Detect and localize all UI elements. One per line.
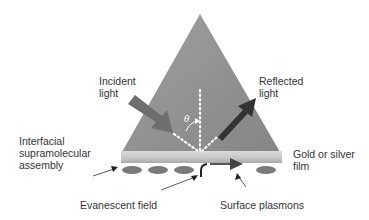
leader-lines: [93, 169, 246, 190]
molecule-ellipse: [256, 166, 276, 174]
interfacial-assembly: [122, 166, 276, 174]
evanescent-field-label: Evanescent field: [80, 199, 157, 211]
surface-plasmons-label: Surface plasmons: [220, 199, 304, 211]
molecule-ellipse: [174, 166, 194, 174]
spr-diagram: [0, 0, 369, 220]
reflected-light-label: Reflected light: [259, 75, 303, 99]
interfacial-assembly-label: Interfacial supramolecular assembly: [19, 135, 91, 171]
metal-film: [121, 151, 282, 163]
evanescent-field-curve: [201, 164, 207, 177]
molecule-ellipse: [122, 166, 142, 174]
molecule-ellipse: [148, 166, 168, 174]
angle-theta-label: θ: [184, 114, 189, 124]
gold-silver-film-label: Gold or silver film: [293, 148, 355, 172]
incident-light-label: Incident light: [99, 75, 136, 99]
